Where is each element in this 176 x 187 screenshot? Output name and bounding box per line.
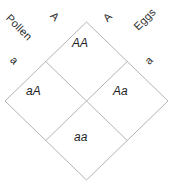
cell-genotype-bottom: aa	[74, 131, 87, 143]
cell-genotype-left: aA	[26, 85, 41, 97]
cell-genotype-right: Aa	[113, 85, 128, 97]
punnett-square-diagram: Pollen Eggs A a A a AA aA Aa aa	[0, 0, 176, 187]
cell-genotype-top: AA	[72, 37, 88, 49]
